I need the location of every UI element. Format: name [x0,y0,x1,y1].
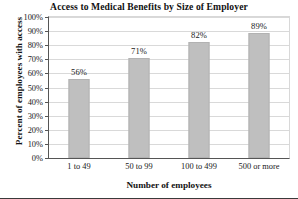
y-tick-label: 90% [28,27,43,36]
x-tick-label: 100 to 499 [181,162,217,171]
x-axis-title: Number of employees [48,180,290,190]
bar-slot: 82%100 to 499 [169,17,229,158]
y-tick-label: 40% [28,97,43,106]
y-tick-label: 70% [28,55,43,64]
y-tick-label: 30% [28,111,43,120]
chart-title: Access to Medical Benefits by Size of Em… [0,1,298,12]
y-tick-label: 50% [28,83,43,92]
bar-slot: 89%500 or more [229,17,289,158]
y-tick-label: 10% [28,139,43,148]
bar [129,58,150,158]
bar-chart-figure: Access to Medical Benefits by Size of Em… [0,0,298,199]
bar-slot: 56%1 to 49 [49,17,109,158]
bar [189,42,210,158]
bar-value-label: 82% [191,30,207,40]
bar [249,33,270,158]
y-tick-label: 80% [28,41,43,50]
plot-area: 0%10%20%30%40%50%60%70%80%90%100% 56%1 t… [48,16,290,159]
y-tick-label: 20% [28,125,43,134]
y-tick-label: 0% [32,154,43,163]
x-tick-label: 500 or more [239,162,280,171]
bar-slot: 71%50 to 99 [109,17,169,158]
y-axis-title: Percent of employees with access [14,6,24,156]
bar-value-label: 89% [251,21,267,31]
y-tick-label: 100% [23,13,43,22]
bar-value-label: 56% [71,67,87,77]
y-tick-label: 60% [28,69,43,78]
bar-value-label: 71% [131,46,147,56]
y-tick-mark [45,158,49,159]
x-tick-label: 50 to 99 [125,162,152,171]
x-tick-label: 1 to 49 [67,162,90,171]
bar [69,79,90,158]
